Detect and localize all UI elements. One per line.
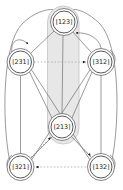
node-132[interactable]: [132] <box>88 154 115 181</box>
node-231[interactable]: [231] <box>7 49 34 76</box>
node-123-label: [123] <box>56 18 73 26</box>
node-132-label: [132] <box>93 163 110 171</box>
node-312[interactable]: [312] <box>88 49 115 76</box>
node-231-label: [231] <box>12 58 29 66</box>
edge-213-132-chord <box>71 136 91 157</box>
node-321[interactable]: [321] <box>7 154 34 181</box>
node-321-label: [321] <box>12 163 29 171</box>
node-213[interactable]: [213] <box>49 114 76 141</box>
edge-312-123-arrow <box>76 33 101 48</box>
permutation-diagram: [123] [231] [312] [213] [321] <box>0 0 123 190</box>
edge-321-213-dotted <box>31 138 51 158</box>
graph-canvas: [123] [231] [312] [213] [321] <box>0 0 123 190</box>
edge-213-321-chord <box>31 136 53 158</box>
node-123[interactable]: [123] <box>51 9 78 36</box>
node-312-label: [312] <box>93 58 110 66</box>
node-213-label: [213] <box>54 123 71 131</box>
